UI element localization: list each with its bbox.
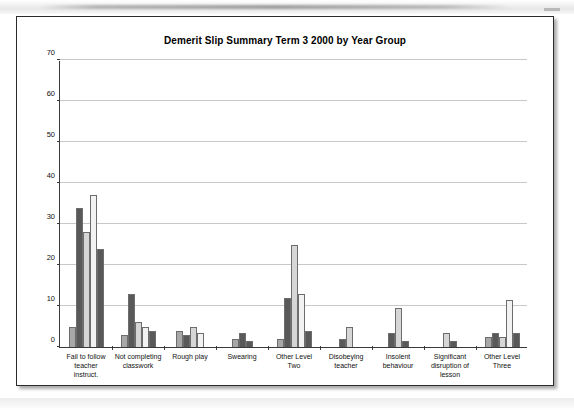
x-axis-tick-mark bbox=[372, 346, 373, 350]
x-axis-category-label-line: Three bbox=[468, 361, 536, 370]
chart-title: Demerit Slip Summary Term 3 2000 by Year… bbox=[17, 35, 553, 46]
bar bbox=[291, 245, 298, 348]
bar bbox=[450, 341, 457, 347]
y-axis-tick-label: 60 bbox=[47, 88, 55, 97]
bar bbox=[395, 308, 402, 347]
bar-group bbox=[268, 61, 320, 347]
scan-artifact-mark bbox=[544, 8, 560, 11]
y-axis-tick-label: 0 bbox=[51, 334, 55, 343]
x-axis-category-label-line: classwork bbox=[104, 361, 172, 370]
bar-group bbox=[164, 61, 216, 347]
y-axis-tick-label: 40 bbox=[47, 170, 55, 179]
bar bbox=[135, 322, 142, 347]
scan-artifact-top bbox=[0, 0, 574, 14]
bar bbox=[492, 333, 499, 347]
plot-area: 010203040506070 Fail to followteacherins… bbox=[59, 61, 527, 348]
chart-page-frame: Demerit Slip Summary Term 3 2000 by Year… bbox=[16, 16, 554, 386]
bar bbox=[69, 327, 76, 348]
x-axis-tick-mark bbox=[112, 346, 113, 350]
bar-group bbox=[320, 61, 372, 347]
x-axis-category-label-line: lesson bbox=[416, 370, 484, 379]
bar bbox=[485, 337, 492, 347]
bar bbox=[277, 339, 284, 347]
bar bbox=[183, 335, 190, 347]
y-axis-tick-label: 70 bbox=[47, 47, 55, 56]
bar bbox=[346, 327, 353, 348]
y-axis-tick-label: 30 bbox=[47, 211, 55, 220]
bar bbox=[499, 337, 506, 347]
x-axis-category-label-line: Other Level bbox=[468, 352, 536, 361]
bar bbox=[90, 195, 97, 347]
bar bbox=[402, 341, 409, 347]
bar-group bbox=[476, 61, 528, 347]
bar bbox=[388, 333, 395, 347]
y-axis-tick-label: 10 bbox=[47, 293, 55, 302]
bar bbox=[513, 333, 520, 347]
x-axis-tick-mark bbox=[476, 346, 477, 350]
bar bbox=[298, 294, 305, 347]
bar bbox=[239, 333, 246, 347]
bar bbox=[506, 300, 513, 347]
bar bbox=[176, 331, 183, 347]
bar-group bbox=[424, 61, 476, 347]
y-axis-tick-label: 20 bbox=[47, 252, 55, 261]
x-axis-category-label-line: instruct. bbox=[52, 370, 120, 379]
bar bbox=[443, 333, 450, 347]
x-axis-tick-mark bbox=[216, 346, 217, 350]
bar bbox=[97, 249, 104, 347]
x-axis-tick-mark bbox=[164, 346, 165, 350]
bar bbox=[149, 331, 156, 347]
bars-layer bbox=[60, 61, 527, 347]
gridline bbox=[60, 59, 527, 60]
scan-artifact-bottom bbox=[0, 398, 574, 410]
bar bbox=[305, 331, 312, 347]
x-axis-tick-mark bbox=[424, 346, 425, 350]
y-axis-tick-mark bbox=[57, 59, 60, 60]
bar bbox=[121, 335, 128, 347]
bar-group bbox=[60, 61, 112, 347]
bar bbox=[197, 333, 204, 347]
bar bbox=[128, 294, 135, 347]
bar bbox=[142, 327, 149, 348]
bar bbox=[83, 232, 90, 347]
x-axis-category-label: Other LevelThree bbox=[468, 352, 536, 370]
x-axis-tick-mark bbox=[320, 346, 321, 350]
bar bbox=[76, 208, 83, 347]
bar-group bbox=[372, 61, 424, 347]
bar bbox=[190, 327, 197, 348]
x-axis-tick-mark bbox=[268, 346, 269, 350]
bar bbox=[246, 341, 253, 347]
bar bbox=[284, 298, 291, 347]
bar bbox=[339, 339, 346, 347]
bar bbox=[232, 339, 239, 347]
bar-group bbox=[112, 61, 164, 347]
y-axis-tick-label: 50 bbox=[47, 129, 55, 138]
bar-group bbox=[216, 61, 268, 347]
